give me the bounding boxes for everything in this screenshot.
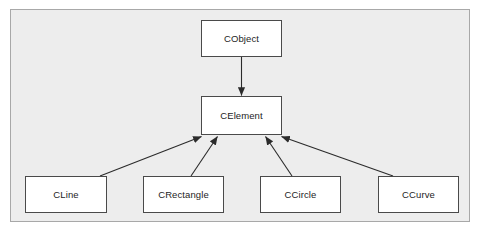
class-diagram: CObject CElement CLine CRectangle CCircl… — [0, 0, 480, 236]
class-label: CLine — [53, 190, 78, 200]
class-box-cline[interactable]: CLine — [25, 176, 107, 213]
class-box-celement[interactable]: CElement — [201, 96, 282, 135]
class-label: CObject — [224, 34, 259, 44]
class-box-ccurve[interactable]: CCurve — [378, 176, 459, 213]
class-box-cobject[interactable]: CObject — [201, 20, 282, 57]
class-label: CCircle — [285, 190, 317, 200]
class-label: CRectangle — [158, 190, 209, 200]
class-label: CCurve — [402, 190, 435, 200]
class-box-crectangle[interactable]: CRectangle — [143, 176, 224, 213]
class-box-ccircle[interactable]: CCircle — [260, 176, 341, 213]
class-label: CElement — [220, 111, 263, 121]
